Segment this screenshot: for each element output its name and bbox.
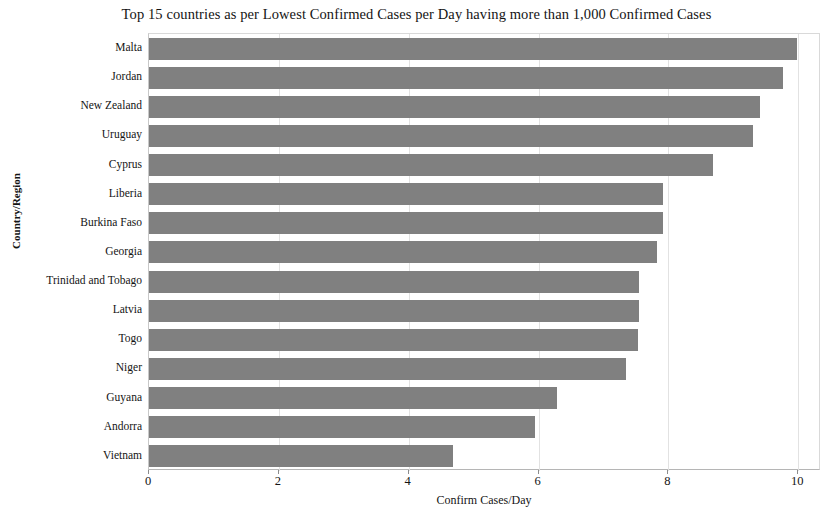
bar[interactable] xyxy=(149,329,638,351)
bar[interactable] xyxy=(149,67,783,89)
x-axis-tick-mark xyxy=(797,470,798,474)
bar[interactable] xyxy=(149,416,535,438)
x-axis-tick-label: 4 xyxy=(388,474,428,489)
y-axis-tick-label: Latvia xyxy=(0,295,142,324)
y-axis-tick-label: Cyprus xyxy=(0,150,142,179)
x-axis-tick-label: 6 xyxy=(518,474,558,489)
x-axis-tick-label: 8 xyxy=(647,474,687,489)
y-axis-tick-label: Trinidad and Tobago xyxy=(0,266,142,295)
x-axis-tick-label: 0 xyxy=(128,474,168,489)
bar[interactable] xyxy=(149,125,753,147)
y-axis-tick-label: Georgia xyxy=(0,237,142,266)
x-axis-tick-label: 10 xyxy=(777,474,817,489)
y-axis-tick-label: Togo xyxy=(0,324,142,353)
y-axis-tick-label: Burkina Faso xyxy=(0,208,142,237)
bar[interactable] xyxy=(149,212,663,234)
bar[interactable] xyxy=(149,154,713,176)
bar[interactable] xyxy=(149,38,797,60)
y-axis-tick-label: Uruguay xyxy=(0,120,142,149)
bar[interactable] xyxy=(149,445,453,467)
bar[interactable] xyxy=(149,387,557,409)
chart-title: Top 15 countries as per Lowest Confirmed… xyxy=(0,6,833,23)
x-axis-tick-mark xyxy=(408,470,409,474)
plot-area xyxy=(148,33,820,470)
y-axis-tick-label: Guyana xyxy=(0,383,142,412)
y-axis-tick-label: Niger xyxy=(0,353,142,382)
gridline-x-10 xyxy=(798,34,799,471)
x-axis-tick-mark xyxy=(538,470,539,474)
y-axis-tick-label: Liberia xyxy=(0,179,142,208)
y-axis-tick-label: New Zealand xyxy=(0,91,142,120)
bar[interactable] xyxy=(149,183,663,205)
y-axis-tick-label: Vietnam xyxy=(0,441,142,470)
bar[interactable] xyxy=(149,271,639,293)
bar-chart-figure: Top 15 countries as per Lowest Confirmed… xyxy=(0,0,833,512)
x-axis-tick-mark xyxy=(148,470,149,474)
bar[interactable] xyxy=(149,96,760,118)
bar[interactable] xyxy=(149,300,639,322)
bar[interactable] xyxy=(149,358,626,380)
x-axis-tick-mark xyxy=(667,470,668,474)
x-axis-tick-mark xyxy=(278,470,279,474)
y-axis-tick-label: Andorra xyxy=(0,412,142,441)
x-axis-label: Confirm Cases/Day xyxy=(148,493,820,508)
bar[interactable] xyxy=(149,241,657,263)
x-axis-tick-label: 2 xyxy=(258,474,298,489)
y-axis-tick-label: Jordan xyxy=(0,62,142,91)
y-axis-tick-label: Malta xyxy=(0,33,142,62)
